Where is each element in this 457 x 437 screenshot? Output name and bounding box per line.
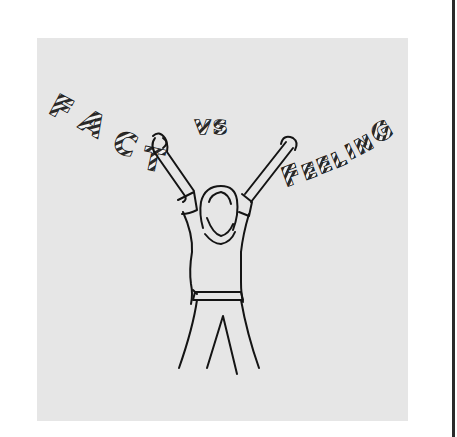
letter-v: V — [195, 115, 211, 139]
letter-a: A — [74, 102, 112, 144]
person-figure — [152, 133, 296, 374]
letter-c: C — [108, 123, 142, 164]
letter-t: T — [140, 140, 168, 179]
illustration-panel: Hand-drawn sketch of a person with arms … — [37, 38, 408, 421]
belt — [193, 290, 243, 300]
right-hand — [281, 137, 297, 150]
left-sleeve — [178, 192, 197, 214]
torso-right — [241, 214, 249, 302]
page-edge-line — [452, 0, 455, 437]
collar — [205, 232, 235, 244]
right-sleeve — [239, 194, 252, 216]
word-feeling: F E E L I N G — [278, 115, 398, 193]
word-fact: F A C T — [44, 87, 167, 179]
word-vs: V S — [195, 115, 227, 139]
torso-left — [183, 212, 192, 304]
legs — [179, 300, 259, 374]
head-hair — [200, 186, 237, 236]
letter-s: S — [213, 115, 227, 139]
sketch-illustration: F A C T V S F E E L I N G — [37, 38, 408, 421]
letter-f: F — [44, 87, 79, 128]
